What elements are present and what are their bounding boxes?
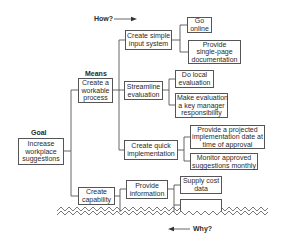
goal-line: Increase <box>20 140 62 148</box>
node-empty-truncated <box>180 199 222 211</box>
node-line: input system <box>127 40 170 48</box>
node-provide-single-page-documentation: Provide single-page documentation <box>188 40 241 64</box>
node-line: Create simple <box>127 32 170 40</box>
node-monitor-approved-suggestions: Monitor approved suggestions monthly <box>190 153 258 170</box>
goal-box: Increase workplace suggestions <box>18 138 64 165</box>
node-line: capability <box>80 196 113 204</box>
how-why-diagram: How? Why? Goal Increase workplace sugges… <box>0 0 283 244</box>
node-line: implementation date at <box>192 133 263 141</box>
node-line: Create <box>80 188 113 196</box>
node-line: data <box>182 185 220 193</box>
node-line: evaluation <box>177 79 212 87</box>
node-make-evaluation-key-manager-responsibility: Make evaluation a key manager responsibi… <box>175 93 228 118</box>
goal-line: workplace <box>20 148 62 156</box>
node-line: Provide <box>128 182 166 190</box>
node-line: documentation <box>190 56 239 64</box>
node-provide-information: Provide information <box>126 180 168 199</box>
node-line: process <box>80 94 111 102</box>
node-create-quick-implementation: Create quick implementation <box>124 140 178 160</box>
node-streamline-evaluation: Streamline evaluation <box>124 81 163 100</box>
node-create-simple-input-system: Create simple input system <box>125 30 172 50</box>
node-line: time of approval <box>192 141 263 149</box>
node-line: Create quick <box>126 142 176 150</box>
node-line: Provide <box>190 41 239 49</box>
node-create-capability: Create capability <box>78 187 115 205</box>
node-line: Supply cost <box>182 177 220 185</box>
node-do-local-evaluation: Do local evaluation <box>175 70 214 88</box>
break-zigzag <box>57 207 268 215</box>
node-line: Go <box>189 17 210 25</box>
node-go-online: Go online <box>187 17 212 33</box>
means-heading: Means <box>85 70 107 77</box>
node-line: online <box>189 25 210 33</box>
node-supply-cost-data: Supply cost data <box>180 176 222 194</box>
goal-heading: Goal <box>31 129 47 136</box>
node-line: a key manager <box>177 102 226 110</box>
how-label: How? <box>94 15 113 22</box>
node-line: suggestions monthly <box>192 162 256 170</box>
node-create-workable-process: Create a workable process <box>78 78 113 103</box>
node-line: evaluation <box>126 91 161 99</box>
node-line: Do local <box>177 71 212 79</box>
node-line: Monitor approved <box>192 154 256 162</box>
node-line: single-page <box>190 48 239 56</box>
node-line: responsibility <box>177 109 226 117</box>
node-line: Streamline <box>126 83 161 91</box>
goal-line: suggestions <box>20 155 62 163</box>
node-line: Make evaluation <box>177 94 226 102</box>
why-label: Why? <box>193 225 212 232</box>
node-line: Create a <box>80 79 111 87</box>
node-provide-projected-implementation-date: Provide a projected implementation date … <box>190 125 265 149</box>
node-line: implementation <box>126 150 176 158</box>
node-line: information <box>128 190 166 198</box>
node-line: workable <box>80 87 111 95</box>
node-line: Provide a projected <box>192 126 263 134</box>
